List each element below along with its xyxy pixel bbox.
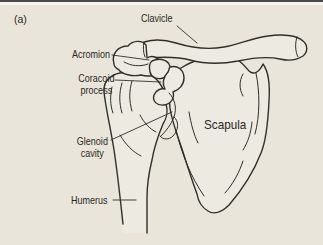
label-scapula: Scapula — [204, 119, 246, 131]
label-clavicle: Clavicle — [141, 12, 173, 24]
label-coracoid-process: Coracoid process — [74, 72, 119, 96]
anatomy-line-drawing — [0, 0, 323, 245]
label-acromion: Acromion — [72, 48, 110, 60]
shoulder-anatomy-figure: (a) Clavicle Acromion Coracoid process G… — [0, 0, 323, 245]
label-glenoid-cavity: Glenoid cavity — [73, 135, 112, 159]
clavicle-leader-line — [177, 26, 197, 43]
label-humerus: Humerus — [71, 194, 108, 206]
panel-label: (a) — [14, 13, 27, 25]
